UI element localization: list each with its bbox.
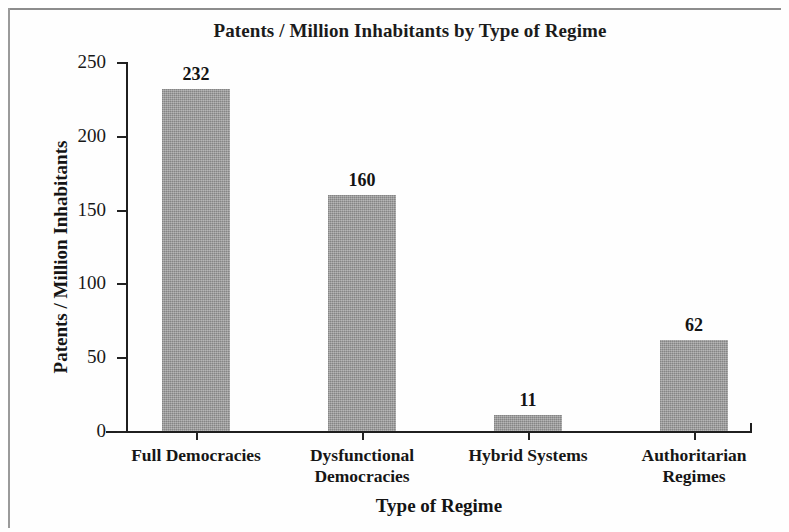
- x-tick-2: [528, 431, 530, 440]
- bar-value-hybrid-systems: 11: [519, 390, 536, 411]
- y-axis-line: [126, 62, 128, 432]
- bar-hybrid-systems[interactable]: 11: [494, 415, 562, 431]
- x-axis-title: Type of Regime: [126, 495, 752, 517]
- x-tick-1: [362, 431, 364, 440]
- x-category-label-dysfunctional-democracies: Dysfunctional Democracies: [272, 445, 452, 488]
- y-tick-label-50: 50: [87, 346, 106, 368]
- x-tick-0: [196, 431, 198, 440]
- chart-page: Patents / Million Inhabitants by Type of…: [0, 0, 789, 532]
- x-category-label-full-democracies: Full Democracies: [96, 445, 296, 466]
- y-tick-150: 150: [117, 210, 126, 212]
- x-category-line-2: Regimes: [604, 466, 784, 487]
- bar-value-full-democracies: 232: [183, 64, 210, 85]
- y-tick-label-100: 100: [78, 272, 107, 294]
- x-category-line-2: Democracies: [272, 466, 452, 487]
- y-tick-label-150: 150: [78, 199, 107, 221]
- bar-full-democracies[interactable]: 232: [162, 89, 230, 431]
- y-tick-200: 200: [117, 136, 126, 138]
- x-category-label-hybrid-systems: Hybrid Systems: [438, 445, 618, 466]
- x-axis-end-cap: [750, 423, 752, 432]
- y-axis-title: Patents / Million Inhabitants: [50, 92, 72, 422]
- chart-title: Patents / Million Inhabitants by Type of…: [60, 20, 760, 42]
- y-tick-100: 100: [117, 283, 126, 285]
- x-category-line-1: Dysfunctional: [310, 445, 414, 465]
- y-tick-0: 0: [117, 431, 126, 433]
- x-category-line-1: Full Democracies: [131, 445, 261, 465]
- bar-dysfunctional-democracies[interactable]: 160: [328, 195, 396, 431]
- x-tick-3: [694, 431, 696, 440]
- x-axis-line: [106, 431, 752, 433]
- plot-area: 250 200 150 100 50 0 232: [126, 62, 752, 431]
- bar-value-dysfunctional-democracies: 160: [349, 170, 376, 191]
- y-tick-250: 250: [117, 62, 126, 64]
- bar-value-authoritarian-regimes: 62: [685, 315, 703, 336]
- y-tick-50: 50: [117, 357, 126, 359]
- bar-authoritarian-regimes[interactable]: 62: [660, 340, 728, 432]
- y-tick-label-200: 200: [78, 125, 107, 147]
- y-tick-label-0: 0: [97, 420, 107, 442]
- x-category-line-1: Hybrid Systems: [468, 445, 587, 465]
- y-tick-label-250: 250: [78, 51, 107, 73]
- bar-chart: Patents / Million Inhabitants by Type of…: [0, 0, 789, 532]
- x-category-label-authoritarian-regimes: Authoritarian Regimes: [604, 445, 784, 488]
- x-category-line-1: Authoritarian: [642, 445, 747, 465]
